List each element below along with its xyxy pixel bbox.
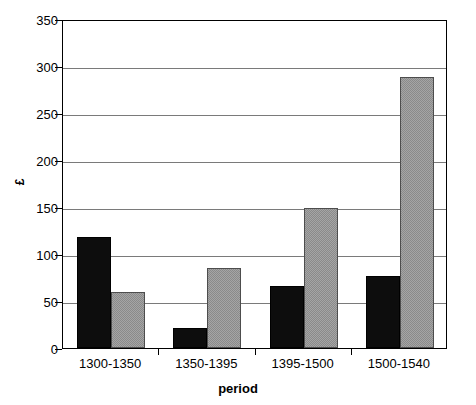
y-axis-tick-mark [55, 255, 62, 256]
y-axis-tick-mark [55, 302, 62, 303]
bar [77, 237, 111, 348]
y-axis-tick-label: 0 [18, 343, 58, 356]
x-axis-tick-mark [351, 349, 352, 355]
y-axis-tick-labels: 050100150200250300350 [14, 0, 58, 405]
y-axis-tick-label: 100 [18, 249, 58, 262]
y-axis-tick-mark [55, 67, 62, 68]
bar [207, 268, 241, 348]
bar-group [366, 21, 434, 348]
y-axis-tick-label: 300 [18, 61, 58, 74]
plot-area [62, 20, 447, 349]
x-axis-label: period [0, 381, 476, 396]
x-axis-tick-label: 1395-1500 [272, 356, 334, 371]
y-axis-tick-mark [55, 20, 62, 21]
y-axis-tick-label: 250 [18, 108, 58, 121]
bar [304, 208, 338, 348]
bar-series-container [63, 21, 446, 348]
y-axis-tick-label: 200 [18, 155, 58, 168]
y-axis-tick-label: 50 [18, 296, 58, 309]
bar [366, 276, 400, 348]
y-axis-tick-label: 150 [18, 202, 58, 215]
bar-group [270, 21, 338, 348]
bar [270, 286, 304, 348]
bar [111, 292, 145, 348]
x-axis-tick-label: 1350-1395 [175, 356, 237, 371]
x-axis-tick-label: 1500-1540 [368, 356, 430, 371]
bar-group [173, 21, 241, 348]
x-axis-tick-label: 1300-1350 [79, 356, 141, 371]
bar [400, 77, 434, 348]
bar [173, 328, 207, 348]
x-axis-tick-labels: 1300-13501350-13951395-15001500-1540 [62, 356, 447, 376]
y-axis-tick-label: 350 [18, 14, 58, 27]
y-axis-tick-mark [55, 114, 62, 115]
y-axis-tick-mark [55, 208, 62, 209]
bar-group [77, 21, 145, 348]
x-axis-tick-mark [158, 349, 159, 355]
y-axis-tick-mark [55, 349, 62, 350]
x-axis-tick-mark [255, 349, 256, 355]
y-axis-tick-mark [55, 161, 62, 162]
bar-chart: £ 050100150200250300350 1300-13501350-13… [0, 0, 476, 405]
